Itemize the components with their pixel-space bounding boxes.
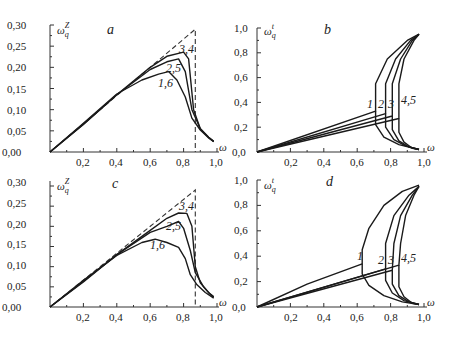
panel-a: 0,00 0,05 0,10 0,15 0,20 0,25 0,30 0,2 0… <box>2 19 227 168</box>
x-tick-label: 0,4 <box>109 156 123 168</box>
y-tick-label: 0,2 <box>234 121 248 133</box>
curve-label: 3,4 <box>178 42 194 56</box>
curve-label: 4,5 <box>401 251 416 265</box>
panel-d: 0,0 0,2 0,4 0,6 0,8 1,0 0,2 0,4 0,6 0,8 … <box>232 174 435 323</box>
curve-label: 1,6 <box>150 238 165 252</box>
origin-label: 0,00 <box>2 301 22 313</box>
curve-label: 1,6 <box>158 76 173 90</box>
y-axis-label: ωqt <box>264 176 276 194</box>
y-axis-label: ωqZ <box>57 177 70 195</box>
x-tick-label: 0,2 <box>284 311 298 323</box>
y-axis-label: ωqZ <box>57 21 70 39</box>
y-tick-label: 0,4 <box>234 96 248 108</box>
x-tick-label: 0,4 <box>317 156 331 168</box>
y-tick-label: 0,4 <box>234 249 248 261</box>
x-tick-label: 0,8 <box>384 311 398 323</box>
x-tick-label: 0,6 <box>143 311 157 323</box>
x-tick-label: 1,0 <box>417 311 431 323</box>
x-tick-label: 1,0 <box>209 311 223 323</box>
curve-label: 3,4 <box>178 199 194 213</box>
x-tick-label: 1,0 <box>209 156 223 168</box>
origin-label: 0,0 <box>232 146 246 158</box>
curve-label: 2,5 <box>166 219 181 233</box>
panel-letter: c <box>112 176 119 191</box>
curve-1-lower-branch <box>376 111 419 149</box>
y-tick-label: 0,20 <box>7 218 27 230</box>
curve-2-5 <box>50 59 214 152</box>
x-tick-label: 0,8 <box>176 311 190 323</box>
curve-2-lower-branch <box>386 269 419 305</box>
y-tick-label: 0,30 <box>7 176 27 188</box>
curve-label: 4,5 <box>401 93 416 107</box>
panel-b: 0,0 0,2 0,4 0,6 0,8 1,0 0,2 0,4 0,6 0,8 … <box>232 22 435 168</box>
curves <box>257 34 419 152</box>
y-tick-label: 0,6 <box>234 71 248 83</box>
y-tick-label: 0,05 <box>7 125 27 137</box>
x-axis-label: ω <box>427 141 435 153</box>
curve-1-lower-branch <box>362 264 419 305</box>
x-axis-label: ω <box>219 296 227 308</box>
x-tick-label: 0,4 <box>109 311 123 323</box>
y-tick-label: 0,25 <box>7 40 27 52</box>
panel-letter: b <box>324 22 331 37</box>
panel-c: 0,00 0,05 0,10 0,15 0,20 0,25 0,30 0,2 0… <box>2 176 227 323</box>
x-tick-label: 0,6 <box>350 156 364 168</box>
x-tick-label: 0,6 <box>350 311 364 323</box>
y-tick-label: 0,8 <box>234 46 248 58</box>
curve-label: 2 <box>378 253 384 267</box>
y-tick-label: 0,30 <box>7 19 27 31</box>
figure: 0,00 0,05 0,10 0,15 0,20 0,25 0,30 0,2 0… <box>0 0 455 339</box>
y-tick-label: 0,10 <box>7 104 27 116</box>
curve-3-4 <box>50 213 214 307</box>
y-tick-label: 1,0 <box>234 22 248 34</box>
y-tick-label: 0,8 <box>234 198 248 210</box>
curve-label: 2 <box>378 97 384 111</box>
y-tick-label: 0,15 <box>7 238 27 250</box>
curves <box>257 185 419 307</box>
curve-label: 3 <box>387 253 394 267</box>
curve-1-6 <box>50 239 214 307</box>
y-axis-label: ωqt <box>264 22 276 40</box>
y-tick-label: 1,0 <box>234 174 248 186</box>
curve-2-5 <box>50 222 214 308</box>
curve-label: 2,5 <box>166 61 181 75</box>
curve-3-4 <box>50 52 214 152</box>
origin-label: 0,0 <box>232 301 246 313</box>
y-tick-label: 0,05 <box>7 280 27 292</box>
y-tick-label: 0,2 <box>234 275 248 287</box>
x-tick-label: 0,6 <box>143 156 157 168</box>
x-axis-label: ω <box>219 141 227 153</box>
y-tick-label: 0,10 <box>7 259 27 271</box>
x-tick-label: 1,0 <box>417 156 431 168</box>
curve-3-lower-branch <box>392 116 419 150</box>
x-axis-label: ω <box>427 296 435 308</box>
curve-label: 1 <box>357 249 363 263</box>
y-tick-label: 0,20 <box>7 61 27 73</box>
curve-label: 3 <box>387 97 394 111</box>
x-tick-label: 0,4 <box>317 311 331 323</box>
panel-letter: a <box>107 22 114 37</box>
origin-label: 0,00 <box>2 146 22 158</box>
y-tick-label: 0,6 <box>234 224 248 236</box>
curve-2-lower-branch <box>386 114 419 150</box>
x-tick-label: 0,8 <box>384 156 398 168</box>
x-tick-label: 0,2 <box>76 311 90 323</box>
y-tick-label: 0,25 <box>7 197 27 209</box>
x-tick-label: 0,8 <box>176 156 190 168</box>
panel-letter: d <box>326 174 334 189</box>
x-tick-label: 0,2 <box>76 156 90 168</box>
y-tick-label: 0,15 <box>7 83 27 95</box>
curve-label: 1 <box>367 97 373 111</box>
x-tick-label: 0,2 <box>284 156 298 168</box>
